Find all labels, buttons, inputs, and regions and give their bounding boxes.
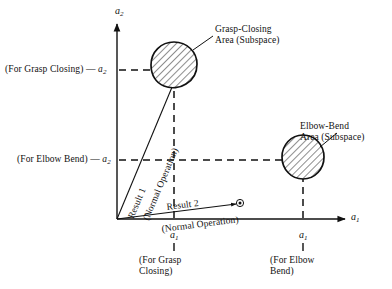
elbow-bend-annotation: Elbow-Bend Area (Subspace) bbox=[300, 121, 392, 143]
x-tick-caption-grasp-closing: (For Grasp Closing) bbox=[139, 255, 219, 277]
x-axis-label-subscript: 1 bbox=[356, 216, 360, 224]
y-tick-label-elbow-bend: (For Elbow Bend) — a2 bbox=[17, 154, 111, 168]
y-axis-label-subscript: 2 bbox=[120, 10, 124, 18]
x-tick-caption-grasp-closing-line2: Closing) bbox=[139, 266, 219, 277]
result-2-target-marker bbox=[236, 199, 243, 206]
figure-canvas: a2 a1 (For Grasp Closing) — a2 (For Elbo… bbox=[0, 0, 392, 289]
grasp-closing-annotation: Grasp-Closing Area (Subspace) bbox=[215, 24, 325, 46]
y-tick-label-grasp-closing: (For Grasp Closing) — a2 bbox=[5, 64, 106, 78]
x-tick-caption-grasp-closing-line1: (For Grasp bbox=[139, 255, 219, 266]
x-tick-caption-elbow-bend: (For Elbow Bend) bbox=[270, 255, 350, 277]
elbow-bend-annotation-line1: Elbow-Bend bbox=[300, 121, 392, 132]
grasp-closing-leader bbox=[193, 36, 213, 50]
grasp-closing-annotation-line1: Grasp-Closing bbox=[215, 24, 325, 35]
x-tick-symbol-elbow-bend: a1 bbox=[299, 229, 308, 244]
grasp-closing-area-shape bbox=[151, 42, 197, 88]
y-axis-label: a2 bbox=[115, 5, 124, 20]
grasp-closing-annotation-line2: Area (Subspace) bbox=[215, 35, 325, 46]
x-tick-caption-elbow-bend-line2: Bend) bbox=[270, 266, 350, 277]
y-tick-subscript-grasp: 2 bbox=[103, 68, 107, 76]
y-tick-dash-elbow: — bbox=[90, 154, 100, 164]
x-tick-stubs bbox=[174, 243, 303, 251]
result-1-vector bbox=[117, 68, 180, 219]
elbow-bend-annotation-line2: Area (Subspace) bbox=[300, 132, 392, 143]
x-tick-symbol-grasp-closing-sub: 1 bbox=[175, 234, 179, 242]
y-tick-subscript-elbow: 2 bbox=[107, 158, 111, 166]
diagram-vector-layer bbox=[0, 0, 392, 289]
x-axis-label: a1 bbox=[351, 211, 360, 226]
y-tick-label-elbow-bend-text: (For Elbow Bend) bbox=[17, 154, 88, 164]
y-tick-dash-grasp: — bbox=[86, 64, 96, 74]
y-tick-label-grasp-closing-text: (For Grasp Closing) bbox=[5, 64, 83, 74]
x-tick-symbol-elbow-bend-sub: 1 bbox=[304, 234, 308, 242]
x-tick-caption-elbow-bend-line1: (For Elbow bbox=[270, 255, 350, 266]
